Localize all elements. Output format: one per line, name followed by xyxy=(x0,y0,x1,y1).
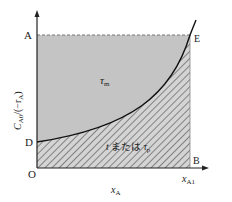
reactor-plot-diagram: A E D B O xA1 xA CA0/(−rA) τm t または τp xyxy=(0,0,232,202)
x-tick-label-xa1: xA1 xyxy=(181,173,196,186)
x-axis-label: xA xyxy=(110,184,121,197)
origin-label: O xyxy=(28,168,36,180)
y-axis-arrow-icon xyxy=(35,10,40,17)
point-label-a: A xyxy=(24,29,32,41)
point-label-b: B xyxy=(193,155,200,166)
x-axis-arrow-icon xyxy=(202,166,209,171)
point-label-e: E xyxy=(194,33,200,44)
y-axis-label: CA0/(−rA) xyxy=(12,91,25,130)
point-label-d: D xyxy=(25,136,33,148)
